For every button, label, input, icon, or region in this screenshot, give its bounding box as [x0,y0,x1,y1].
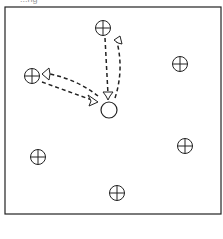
arrow-left-icon [42,68,50,80]
path-center-to-left [50,74,98,96]
target-top [96,21,111,36]
movement-paths [42,38,120,100]
target-lower-left [31,150,46,165]
arrowheads [42,36,122,106]
path-left-to-center [42,82,92,100]
arrow-down-icon [103,92,113,100]
target-left [25,69,40,84]
center-circle [101,102,117,118]
target-bottom [110,186,125,201]
arrow-up-icon [114,36,122,44]
path-center-to-top [115,42,120,98]
target-upper-right [173,57,188,72]
path-top-to-center [105,38,108,94]
trajectory-diagram [0,0,223,239]
target-lower-right [178,139,193,154]
arrow-right-icon [88,95,98,106]
